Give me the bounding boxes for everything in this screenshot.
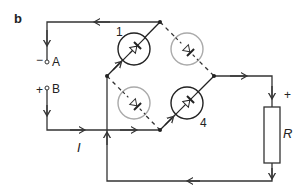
current-label: I xyxy=(77,141,81,154)
panel-label: b xyxy=(14,12,22,25)
resistor-polarity: + xyxy=(284,89,291,101)
resistor xyxy=(264,107,280,163)
terminal-a-label: A xyxy=(52,56,60,68)
terminal-a xyxy=(45,60,49,64)
terminal-b-label: B xyxy=(52,83,60,95)
resistor-label: R xyxy=(283,127,292,140)
terminal-b-polarity: + xyxy=(36,84,43,96)
diode-4-label: 4 xyxy=(200,117,207,129)
diode-2 xyxy=(164,26,209,71)
terminal-a-polarity: − xyxy=(36,54,43,66)
terminal-b xyxy=(45,86,49,90)
diode-1-label: 1 xyxy=(116,26,123,38)
circuit-diagram xyxy=(0,0,304,196)
diode-3 xyxy=(111,80,156,125)
wire-right xyxy=(214,76,272,107)
